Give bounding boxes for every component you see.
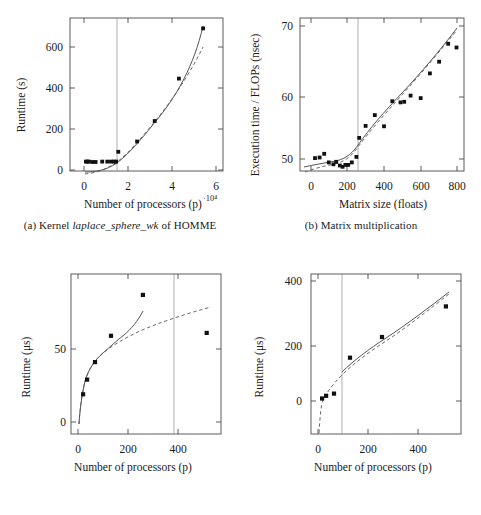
- xtick-a-2: 2: [125, 180, 131, 192]
- ytick-d-0: 0: [296, 395, 302, 407]
- xtick-c-400: 400: [169, 443, 187, 455]
- model-curve-solid-d: [342, 292, 449, 372]
- ytick-b-50: 50: [282, 153, 294, 165]
- datapoint-group-b: [313, 42, 458, 169]
- xtick-c-200: 200: [119, 443, 137, 455]
- axis-label-y-d: Runtime (μs): [253, 336, 266, 397]
- axis-label-x-a: Number of processors (p): [84, 198, 202, 211]
- model-curve-dashed-d: [319, 294, 449, 433]
- xtick-b-200: 200: [338, 180, 356, 192]
- subplot-d: Runtime (μs) 0 200 400 0 200 400 Number …: [241, 257, 481, 514]
- plot-a-svg: Runtime (s) 0 200 400 600 0 2 4 6 Number…: [0, 0, 240, 215]
- plot-frame-a: [70, 18, 223, 171]
- xtick-b-600: 600: [412, 180, 430, 192]
- plot-frame-c: [71, 274, 221, 434]
- xtick-d-200: 200: [359, 443, 377, 455]
- ytick-a-600: 600: [46, 41, 64, 53]
- caption-a-suffix: of HOMME: [159, 219, 217, 231]
- axis-exponent-a: ·10⁴: [203, 193, 217, 203]
- xtick-a-4: 4: [169, 180, 175, 192]
- ytick-b-60: 60: [282, 91, 294, 103]
- axis-label-y-b: Execution time / FLOPs (nsec): [249, 34, 262, 177]
- caption-a: (a) Kernel laplace_sphere_wk of HOMME: [0, 218, 240, 232]
- xtick-b-0: 0: [308, 180, 314, 192]
- caption-a-prefix: (a) Kernel: [24, 219, 73, 231]
- plot-d-svg: Runtime (μs) 0 200 400 0 200 400 Number …: [241, 257, 481, 479]
- xtick-a-0: 0: [81, 180, 87, 192]
- ytick-a-200: 200: [46, 123, 64, 135]
- ytick-a-0: 0: [57, 164, 63, 176]
- caption-b: (b) Matrix multiplication: [241, 218, 481, 232]
- axis-label-y-c: Runtime (μs): [20, 336, 33, 397]
- ytick-d-200: 200: [285, 340, 303, 352]
- ytick-c-0: 0: [60, 416, 66, 428]
- xtick-d-400: 400: [409, 443, 427, 455]
- model-curve-dashed-b: [305, 30, 457, 172]
- plot-frame-d: [311, 274, 461, 434]
- ytick-b-70: 70: [282, 20, 294, 32]
- model-curve-solid-b: [304, 28, 457, 167]
- plot-frame-b: [300, 18, 464, 171]
- subplot-b: Execution time / FLOPs (nsec) 50 60 70 0…: [241, 0, 481, 257]
- axis-label-x-c: Number of processors (p): [74, 461, 192, 474]
- ytick-a-400: 400: [46, 82, 64, 94]
- axis-label-x-b: Matrix size (floats): [339, 198, 427, 211]
- axis-label-x-d: Number of processors (p): [314, 461, 432, 474]
- xtick-b-400: 400: [375, 180, 393, 192]
- model-curve-solid-a: [85, 26, 203, 172]
- subplot-c: Runtime (μs) 0 50 0 200 400 Number of pr…: [0, 257, 240, 514]
- model-curve-dashed-a: [85, 47, 203, 174]
- ytick-d-400: 400: [285, 275, 303, 287]
- plot-c-svg: Runtime (μs) 0 50 0 200 400 Number of pr…: [0, 257, 240, 479]
- subplot-a: Runtime (s) 0 200 400 600 0 2 4 6 Number…: [0, 0, 240, 257]
- datapoint-group-d: [320, 304, 448, 400]
- xtick-c-0: 0: [75, 443, 81, 455]
- model-curve-solid-c: [79, 311, 143, 424]
- ytick-c-50: 50: [55, 343, 67, 355]
- xtick-d-0: 0: [315, 443, 321, 455]
- figure-container: Runtime (s) 0 200 400 600 0 2 4 6 Number…: [0, 0, 481, 515]
- xtick-a-6: 6: [213, 180, 219, 192]
- caption-a-kernel: laplace_sphere_wk: [72, 219, 158, 231]
- datapoint-group-a: [84, 27, 205, 164]
- datapoint-group-c: [81, 293, 209, 397]
- plot-b-svg: Execution time / FLOPs (nsec) 50 60 70 0…: [241, 0, 481, 215]
- xtick-b-800: 800: [448, 180, 466, 192]
- axis-label-y-a: Runtime (s): [15, 78, 28, 133]
- model-curve-dashed-c: [79, 307, 211, 424]
